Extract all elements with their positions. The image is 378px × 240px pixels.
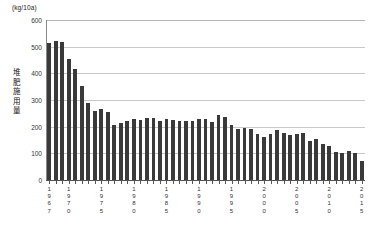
x-axis-tick-mark [264,181,265,184]
y-axis-tick-label: 500 [31,43,42,50]
bar [223,117,227,180]
x-axis-tick-label-digit: 0 [325,208,333,215]
bar [93,111,97,180]
x-axis-tick-label: 2005 [293,186,301,215]
x-axis-tick-label: 2010 [325,186,333,215]
x-axis-tick-label-digit: 8 [162,200,170,207]
x-axis-tick-label: 1980 [130,186,138,215]
x-axis-tick-label-digit: 1 [45,186,53,193]
bar [99,109,103,180]
x-axis-tick-mark [316,181,317,184]
x-axis-tick-mark [212,181,213,184]
x-axis-tick-mark [153,181,154,184]
bar [184,121,188,180]
x-axis-tick-label-digit: 5 [162,208,170,215]
x-axis-tick-mark [114,181,115,184]
x-axis-tick-label-digit: 0 [293,193,301,200]
x-axis-tick-label-digit: 9 [195,200,203,207]
bar [171,120,175,180]
bar [86,103,90,180]
bar [275,130,279,180]
bar [73,69,77,180]
x-axis-tick-mark [225,181,226,184]
x-axis-tick-mark [303,181,304,184]
x-axis-tick-label-digit: 0 [65,208,73,215]
bar [132,119,136,180]
x-axis-tick-mark [56,181,57,184]
bar [340,153,344,180]
x-axis-tick-mark [199,181,200,184]
x-axis-tick-label-digit: 9 [228,200,236,207]
gridline [46,47,365,48]
x-axis-tick-label-digit: 5 [97,208,105,215]
x-axis-tick-mark [323,181,324,184]
x-axis-tick-label-digit: 1 [162,186,170,193]
bar [197,119,201,180]
x-axis-tick-label-digit: 8 [130,200,138,207]
x-axis-tick-mark [219,181,220,184]
x-axis-tick-label: 1967 [45,186,53,215]
bar [217,115,221,180]
x-axis-tick-mark [355,181,356,184]
x-axis-tick-mark [277,181,278,184]
x-axis-tick-label: 1995 [228,186,236,215]
x-axis-tick-label-digit: 9 [130,193,138,200]
x-axis-tick-mark [88,181,89,184]
bar [60,42,64,180]
bar [282,133,286,180]
x-axis-tick-mark [179,181,180,184]
bar [295,134,299,180]
plot-area [46,20,365,180]
bar [67,59,71,180]
bar [204,119,208,180]
x-axis-tick-mark [362,181,363,184]
x-axis-tick-label-digit: 0 [195,208,203,215]
x-axis-tick-mark [258,181,259,184]
bar [269,134,273,180]
x-axis-tick-label-digit: 5 [228,208,236,215]
bar [125,121,129,180]
gridline [46,20,365,21]
x-axis-tick-label-digit: 2 [358,186,366,193]
x-axis-tick-mark [290,181,291,184]
x-axis-tick-mark [160,181,161,184]
bar [145,118,149,180]
x-axis-tick-mark [192,181,193,184]
bar [353,153,357,180]
x-axis-tick-mark [166,181,167,184]
bar [119,123,123,180]
x-axis-tick-mark [271,181,272,184]
y-axis-title-char: 施 [11,87,22,97]
x-axis-tick-label-digit: 1 [195,186,203,193]
bar [308,141,312,180]
x-axis-tick-label-digit: 9 [97,193,105,200]
x-axis-tick-label-digit: 0 [260,200,268,207]
bar [301,133,305,180]
x-axis-tick-label-digit: 1 [65,186,73,193]
bar [210,122,214,180]
x-axis-tick-label-digit: 5 [358,208,366,215]
bar [321,144,325,180]
bar [243,128,247,180]
x-axis-tick-label-digit: 2 [293,186,301,193]
x-axis-tick-label: 1990 [195,186,203,215]
x-axis-tick-label-digit: 0 [260,208,268,215]
gridlines-and-bars [46,20,365,180]
y-axis-tick-label: 0 [38,177,42,184]
x-axis-tick-label-digit: 9 [195,193,203,200]
y-axis-title-char: 堆 [11,68,22,78]
x-axis-tick-label-digit: 0 [293,200,301,207]
x-axis-tick-mark [342,181,343,184]
x-axis-tick-label-digit: 1 [325,200,333,207]
bar [47,43,51,180]
x-axis-tick-label-digit: 0 [260,193,268,200]
x-axis-tick-mark [62,181,63,184]
x-axis-tick-mark [238,181,239,184]
x-axis-tick-label-digit: 9 [228,193,236,200]
x-axis-tick-mark [127,181,128,184]
bar [347,151,351,180]
bar [158,121,162,180]
bar [165,119,169,180]
x-axis-tick-label-digit: 1 [97,186,105,193]
x-axis-tick-label-digit: 0 [130,208,138,215]
